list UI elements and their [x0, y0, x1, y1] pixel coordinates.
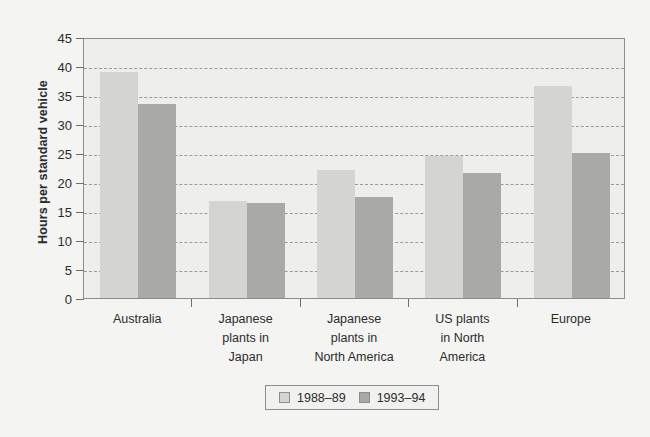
category-label-line: Australia [83, 310, 191, 329]
legend-entry-1: 1993–94 [359, 391, 426, 405]
x-axis-category-label: Australia [83, 310, 191, 329]
x-axis-tick [191, 299, 192, 307]
y-axis-tick [76, 96, 84, 97]
y-axis: 051015202530354045 [0, 0, 650, 437]
bar-chart-figure: Hours per standard vehicle 0510152025303… [0, 0, 650, 437]
y-axis-tick-label: 10 [34, 234, 72, 249]
x-axis-tick [300, 299, 301, 307]
y-axis-tick [76, 212, 84, 213]
y-axis-tick [76, 241, 84, 242]
y-axis-tick [76, 183, 84, 184]
category-label-line: in North [408, 329, 516, 348]
y-axis-tick-label: 35 [34, 89, 72, 104]
category-label-line: Japanese [300, 310, 408, 329]
x-axis-category-label: Japaneseplants inJapan [191, 310, 299, 367]
y-axis-tick-label: 15 [34, 205, 72, 220]
x-axis-category-label: Europe [517, 310, 625, 329]
legend-label: 1988–89 [297, 391, 346, 405]
category-label-line: plants in [191, 329, 299, 348]
category-label-line: US plants [408, 310, 516, 329]
category-label-line: plants in [300, 329, 408, 348]
x-axis-tick [408, 299, 409, 307]
y-axis-tick [76, 67, 84, 68]
x-axis-category-label: Japaneseplants inNorth America [300, 310, 408, 367]
legend-swatch-icon [359, 392, 370, 403]
legend-entry-0: 1988–89 [279, 391, 346, 405]
y-axis-tick-label: 20 [34, 176, 72, 191]
y-axis-tick-label: 30 [34, 118, 72, 133]
category-label-line: Japan [191, 348, 299, 367]
y-axis-tick [76, 270, 84, 271]
legend-swatch-icon [279, 392, 290, 403]
y-axis-tick [76, 125, 84, 126]
y-axis-tick-label: 45 [34, 31, 72, 46]
y-axis-tick-label: 40 [34, 60, 72, 75]
x-axis-category-label: US plantsin NorthAmerica [408, 310, 516, 367]
legend-label: 1993–94 [377, 391, 426, 405]
category-label-line: North America [300, 348, 408, 367]
category-label-line: America [408, 348, 516, 367]
category-label-line: Japanese [191, 310, 299, 329]
y-axis-tick [76, 38, 84, 39]
chart-legend: 1988–891993–94 [265, 385, 439, 410]
category-label-line: Europe [517, 310, 625, 329]
y-axis-tick-label: 5 [34, 263, 72, 278]
y-axis-tick [76, 299, 84, 300]
y-axis-tick [76, 154, 84, 155]
x-axis-tick [517, 299, 518, 307]
y-axis-tick-label: 0 [34, 292, 72, 307]
y-axis-tick-label: 25 [34, 147, 72, 162]
